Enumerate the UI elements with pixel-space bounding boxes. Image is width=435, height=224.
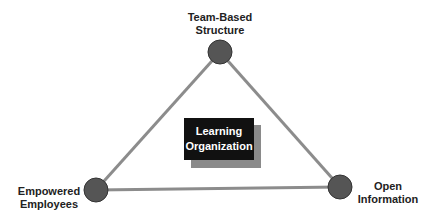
- label-top: Team-Based Structure: [180, 11, 260, 37]
- label-bottom-left-line1: Empowered: [14, 185, 84, 198]
- label-bottom-left: Empowered Employees: [14, 185, 84, 211]
- node-top: [208, 40, 232, 64]
- label-top-line1: Team-Based: [180, 11, 260, 24]
- label-bottom-right: Open Information: [353, 180, 423, 206]
- edge-bottom: [96, 187, 340, 190]
- label-top-line2: Structure: [180, 24, 260, 37]
- center-box: Learning Organization: [184, 118, 254, 160]
- center-box-line2: Organization: [184, 139, 254, 154]
- node-bottom-left: [84, 178, 108, 202]
- label-bottom-right-line1: Open: [353, 180, 423, 193]
- center-box-line1: Learning: [184, 124, 254, 139]
- node-bottom-right: [328, 175, 352, 199]
- label-bottom-left-line2: Employees: [14, 198, 84, 211]
- label-bottom-right-line2: Information: [353, 193, 423, 206]
